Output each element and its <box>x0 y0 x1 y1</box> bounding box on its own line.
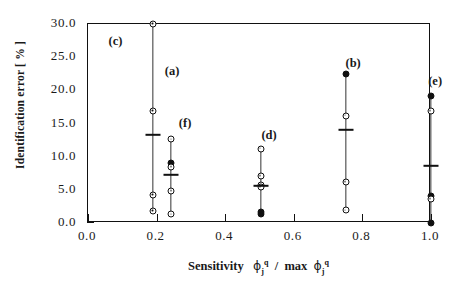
phi-numerator-subscript: j <box>261 267 264 276</box>
x-axis-tick-label: 0.2 <box>147 228 165 244</box>
phi-denominator-icon: ϕ <box>314 258 322 273</box>
x-axis-tick-label: 0.4 <box>215 228 233 244</box>
x-axis-label: Sensitivity ϕjq / max ϕjq <box>87 258 430 276</box>
x-axis-tick-label: 0.8 <box>352 228 370 244</box>
max-operator: max <box>284 259 307 273</box>
x-axis-tick-label: 0.0 <box>78 228 96 244</box>
phi-numerator-superscript: q <box>264 258 268 267</box>
phi-denominator-superscript: q <box>324 258 328 267</box>
phi-denominator-subscript: j <box>322 267 325 276</box>
x-axis-tick-label: 0.6 <box>284 228 302 244</box>
x-axis-label-prefix: Sensitivity <box>188 259 244 273</box>
x-axis-tick-labels: 0.00.20.40.60.81.0 <box>0 0 451 290</box>
fraction-slash: / <box>275 259 278 273</box>
x-axis-tick-label: 1.0 <box>421 228 439 244</box>
figure-container: Identification error [ % ] 0.05.010.015.… <box>0 0 451 290</box>
